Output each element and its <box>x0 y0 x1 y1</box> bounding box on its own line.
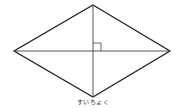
rhombus-diagram <box>0 0 179 108</box>
caption-perpendicular: すいちょく <box>0 98 179 106</box>
right-angle-marker <box>93 43 101 51</box>
